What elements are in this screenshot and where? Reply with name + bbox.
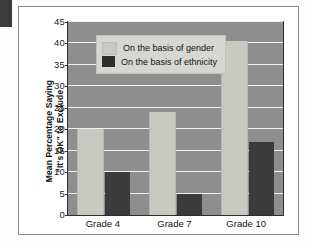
bar-grade-7-gender <box>149 112 176 215</box>
y-tick-label-40: 40 <box>39 37 65 48</box>
legend-swatch-ethnicity-icon <box>102 56 115 67</box>
legend-swatch-gender-icon <box>102 42 117 55</box>
legend: On the basis of gender On the basis of e… <box>96 35 226 74</box>
x-tick-label-grade-7: Grade 7 <box>139 218 211 229</box>
y-tick-label-15: 15 <box>39 145 65 156</box>
legend-label-ethnicity: On the basis of ethnicity <box>121 57 217 67</box>
legend-item-gender: On the basis of gender <box>102 42 217 55</box>
figure-page: Mean Percentage Saying "It's OK" to Excl… <box>0 0 313 249</box>
y-tick-label-25: 25 <box>39 102 65 113</box>
y-tick-label-5: 5 <box>39 188 65 199</box>
bar-grade-4-ethnicity <box>105 172 130 215</box>
y-tick-label-35: 35 <box>39 59 65 70</box>
legend-item-ethnicity: On the basis of ethnicity <box>102 56 217 67</box>
y-tick-label-20: 20 <box>39 123 65 134</box>
y-tick-label-10: 10 <box>39 166 65 177</box>
page-edge-artifact <box>0 0 12 27</box>
bar-chart: Mean Percentage Saying "It's OK" to Excl… <box>18 6 299 235</box>
x-tick-label-grade-4: Grade 4 <box>67 218 139 229</box>
y-axis-ticks: 051015202530354045 <box>33 21 65 216</box>
legend-label-gender: On the basis of gender <box>123 43 214 53</box>
x-axis-ticks: Grade 4Grade 7Grade 10 <box>67 218 284 238</box>
y-tick-label-30: 30 <box>39 80 65 91</box>
bar-grade-10-ethnicity <box>249 142 274 215</box>
y-tick-label-0: 0 <box>39 209 65 220</box>
bar-grade-7-ethnicity <box>177 194 202 215</box>
y-tick-label-45: 45 <box>39 16 65 27</box>
bar-grade-4-gender <box>77 129 104 215</box>
plot-area: On the basis of gender On the basis of e… <box>67 21 284 216</box>
x-tick-label-grade-10: Grade 10 <box>210 218 282 229</box>
